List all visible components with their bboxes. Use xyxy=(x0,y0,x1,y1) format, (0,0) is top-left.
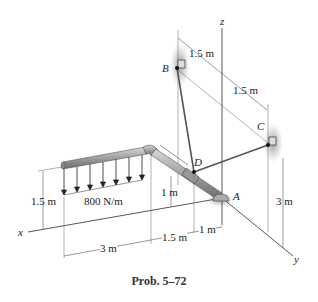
dim-label-load-height: 1.5 m xyxy=(31,196,56,207)
support-a xyxy=(213,194,229,201)
b-c-reference-line xyxy=(178,70,268,143)
dim-label-z-to-c: 1.5 m xyxy=(233,85,258,96)
point-c-dot xyxy=(266,143,270,147)
cable-cd xyxy=(194,145,268,172)
load-label: 800 N/m xyxy=(84,196,123,207)
cable-bd xyxy=(177,68,194,172)
bracket-c xyxy=(269,137,276,145)
dim-label-b-to-z: 1.5 m xyxy=(189,48,214,59)
z-axis-label: z xyxy=(220,16,224,27)
point-c-label: C xyxy=(257,121,264,132)
x-axis xyxy=(28,198,222,232)
dim-tick-top xyxy=(38,167,62,171)
figure-drawing xyxy=(0,0,318,302)
point-d-label: D xyxy=(194,157,202,168)
dim-label-x-3m: 3 m xyxy=(100,243,117,254)
bracket-b xyxy=(178,60,185,68)
pipe-horizontal xyxy=(63,147,147,169)
figure-caption: Prob. 5–72 xyxy=(0,274,318,289)
dim-label-d-height: 1 m xyxy=(161,187,178,198)
dim-label-x-1m: 1 m xyxy=(199,224,216,235)
point-a-label: A xyxy=(233,191,240,202)
dim-label-c-height: 3 m xyxy=(276,196,293,207)
x-axis-label: x xyxy=(18,227,23,238)
point-b-label: B xyxy=(162,63,169,74)
dim-label-x-1-5m: 1.5 m xyxy=(162,232,187,243)
y-axis-label: y xyxy=(294,254,299,265)
point-b-dot xyxy=(175,66,179,70)
point-d-dot xyxy=(192,170,196,174)
problem-figure: z x y B C D A 1.5 m 1.5 m 3 m 1.5 m 800 … xyxy=(0,0,318,302)
pipe-end-cap xyxy=(61,162,65,169)
